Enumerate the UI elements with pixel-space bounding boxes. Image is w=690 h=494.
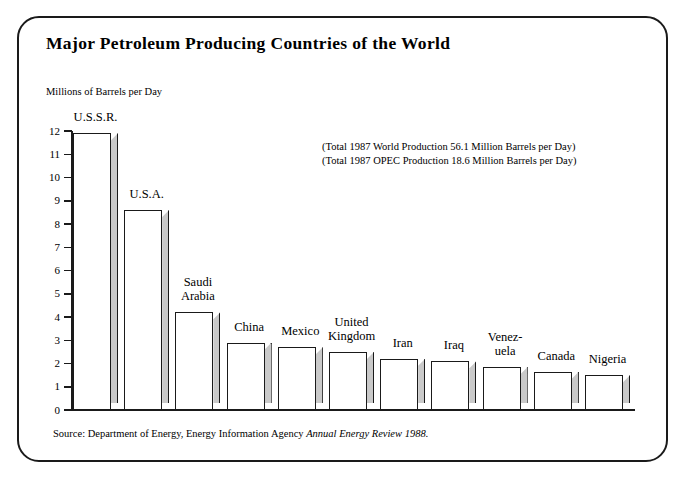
chart-title: Major Petroleum Producing Countries of t…: [46, 33, 450, 54]
y-axis-caption-label: Millions of Barrels per Day: [46, 86, 162, 97]
source-note: Source: Department of Energy, Energy Inf…: [53, 428, 428, 439]
annotation-opec-production: (Total 1987 OPEC Production 18.6 Million…: [322, 154, 576, 168]
source-note-prefix: Source: Department of Energy, Energy Inf…: [53, 428, 306, 439]
source-note-title: Annual Energy Review 1988.: [306, 428, 428, 439]
annotation-world-production: (Total 1987 World Production 56.1 Millio…: [322, 140, 576, 154]
figure-frame: [17, 16, 668, 462]
production-totals-annotation: (Total 1987 World Production 56.1 Millio…: [322, 140, 576, 167]
